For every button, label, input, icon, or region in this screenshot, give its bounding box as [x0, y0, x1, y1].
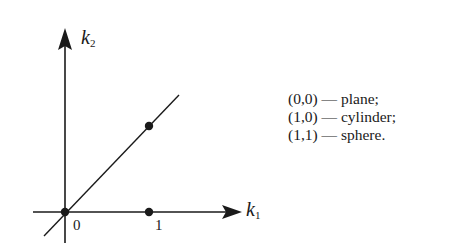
legend-item-plane: (0,0) — plane;	[288, 90, 396, 108]
k2-label-subscript: 2	[90, 37, 96, 49]
tick-label-origin: 0	[73, 217, 81, 234]
legend: (0,0) — plane; (1,0) — cylinder; (1,1) —…	[288, 90, 396, 144]
point-sphere	[145, 122, 153, 130]
k1-label-text: k	[246, 198, 255, 220]
k2-axis-label: k2	[81, 26, 95, 49]
point-plane	[61, 208, 69, 216]
k1-axis-label: k1	[246, 198, 260, 221]
legend-item-sphere: (1,1) — sphere.	[288, 126, 396, 144]
tick-label-one: 1	[155, 217, 163, 234]
point-cylinder	[145, 208, 153, 216]
curvature-diagram	[0, 0, 468, 250]
k1-label-subscript: 1	[255, 209, 261, 221]
k2-label-text: k	[81, 26, 90, 48]
legend-item-cylinder: (1,0) — cylinder;	[288, 108, 396, 126]
